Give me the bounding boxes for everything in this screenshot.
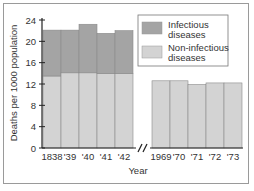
y-tick-label: 16 (25, 57, 36, 68)
legend-swatch-non-infectious (142, 46, 162, 58)
x-tick-label: '39 (64, 151, 76, 162)
bar-non-infectious (43, 76, 61, 148)
bar-non-infectious (97, 73, 115, 148)
x-tick-label: '41 (100, 151, 112, 162)
bar-non-infectious (115, 73, 133, 148)
x-tick-label: '73 (227, 151, 239, 162)
bar-non-infectious (224, 83, 242, 148)
x-ticks: 1838'39'40'41'421969'70'71'72'73 (41, 151, 239, 162)
legend: Infectious diseases Non-infectious disea… (138, 15, 229, 66)
x-tick-label: '71 (191, 151, 203, 162)
y-tick-label: 12 (25, 79, 36, 90)
y-axis-title: Deaths per 1000 population (8, 25, 19, 142)
bar-non-infectious (206, 83, 224, 148)
stacked-bar-chart: 04812162024 1838'39'40'41'421969'70'71'7… (0, 0, 254, 191)
x-tick-label: '42 (118, 151, 130, 162)
x-tick-label: '70 (173, 151, 185, 162)
x-tick-label: '72 (209, 151, 221, 162)
bar-infectious (79, 24, 97, 73)
x-axis-title: Year (128, 165, 147, 176)
x-tick-label: 1969 (150, 151, 171, 162)
legend-label-non-infectious-line2: diseases (168, 52, 206, 63)
x-tick-label: 1838 (41, 151, 62, 162)
axis-break-icon (138, 144, 147, 152)
y-tick-label: 4 (31, 121, 36, 132)
y-tick-label: 24 (25, 15, 36, 26)
bar-non-infectious (61, 73, 79, 148)
bar-non-infectious (79, 73, 97, 148)
bar-infectious (115, 31, 133, 74)
bar-infectious (43, 30, 61, 76)
bar-non-infectious (170, 81, 188, 148)
x-tick-label: '40 (82, 151, 94, 162)
bar-non-infectious (188, 85, 206, 148)
bar-infectious (97, 33, 115, 73)
bar-non-infectious (152, 81, 170, 148)
y-tick-label: 20 (25, 36, 36, 47)
legend-swatch-infectious (142, 22, 162, 34)
bar-infectious (61, 30, 79, 73)
y-tick-label: 8 (31, 100, 36, 111)
y-tick-label: 0 (31, 143, 36, 154)
legend-label-infectious-line2: diseases (168, 29, 206, 40)
